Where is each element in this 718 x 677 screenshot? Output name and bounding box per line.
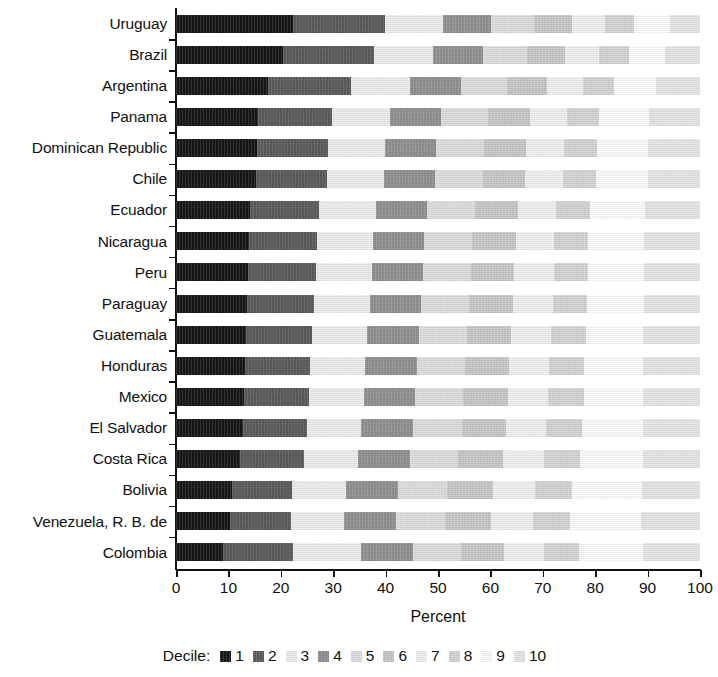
x-axis-tick [176, 570, 178, 577]
legend-item-decile-3[interactable]: 3 [286, 648, 310, 664]
bar-segment-decile-10 [645, 201, 700, 219]
y-axis-tick [169, 195, 176, 196]
bar-segment-decile-2 [243, 419, 307, 437]
bar-segment-decile-3 [351, 77, 410, 95]
bar-segment-decile-9 [629, 46, 666, 64]
x-axis-tick-label: 50 [429, 580, 446, 596]
bar-segment-decile-3 [328, 139, 385, 157]
bar-segment-decile-2 [283, 46, 374, 64]
legend-swatch-icon [416, 651, 427, 662]
x-axis-tick [333, 570, 335, 577]
plot-area: UruguayBrazilArgentinaPanamaDominican Re… [176, 8, 700, 568]
bar-segment-decile-5 [413, 419, 462, 437]
bar-segment-decile-1 [176, 388, 244, 406]
stacked-bar-chart: UruguayBrazilArgentinaPanamaDominican Re… [0, 0, 718, 677]
bar-segment-decile-5 [436, 139, 483, 157]
bar-segment-decile-8 [554, 263, 589, 281]
legend-label: 7 [431, 648, 440, 664]
bar-segment-decile-7 [503, 450, 544, 468]
y-axis-tick [169, 319, 176, 320]
y-axis-tick [169, 226, 176, 227]
bar-segment-decile-10 [641, 512, 700, 530]
x-axis-title: Percent [176, 608, 700, 626]
bar-segment-decile-3 [304, 450, 358, 468]
x-axis-tick [595, 570, 597, 577]
bar-segment-decile-2 [246, 326, 312, 344]
bar-segment-decile-8 [583, 77, 614, 95]
bar-segment-decile-8 [554, 232, 588, 250]
bar-segment-decile-6 [467, 326, 511, 344]
bar-segment-decile-7 [565, 46, 599, 64]
bar-segment-decile-4 [367, 326, 418, 344]
bar-segment-decile-4 [361, 419, 412, 437]
category-label: Uruguay [109, 16, 167, 32]
category-label: Chile [132, 171, 167, 187]
bar-segment-decile-6 [483, 170, 525, 188]
bar-row: Peru [176, 257, 700, 288]
x-axis-tick-label: 60 [482, 580, 499, 596]
stacked-bar [176, 419, 700, 437]
bar-row: Chile [176, 164, 700, 195]
bar-segment-decile-6 [465, 357, 510, 375]
bar-segment-decile-1 [176, 481, 232, 499]
bar-segment-decile-5 [419, 326, 467, 344]
bar-segment-decile-9 [582, 419, 643, 437]
bar-segment-decile-1 [176, 543, 223, 561]
stacked-bar [176, 512, 700, 530]
y-axis-tick [169, 475, 176, 476]
legend-item-decile-1[interactable]: 1 [220, 648, 244, 664]
bar-segment-decile-8 [567, 108, 599, 126]
bar-segment-decile-8 [544, 543, 580, 561]
bar-segment-decile-4 [390, 108, 441, 126]
bar-segment-decile-10 [665, 46, 700, 64]
legend-label: 9 [496, 648, 505, 664]
bar-segment-decile-4 [361, 543, 413, 561]
bar-segment-decile-3 [332, 108, 390, 126]
bar-segment-decile-6 [472, 232, 515, 250]
bar-row: Nicaragua [176, 226, 700, 257]
legend-item-decile-7[interactable]: 7 [416, 648, 440, 664]
bar-segment-decile-6 [471, 263, 514, 281]
legend-item-decile-9[interactable]: 9 [481, 648, 505, 664]
bar-segment-decile-1 [176, 15, 293, 33]
bar-segment-decile-7 [506, 419, 546, 437]
legend-item-decile-10[interactable]: 10 [514, 648, 546, 664]
legend-label: 4 [333, 648, 342, 664]
bar-segment-decile-9 [588, 263, 644, 281]
y-axis-tick [169, 39, 176, 40]
stacked-bar [176, 139, 700, 157]
legend-label: 1 [235, 648, 244, 664]
bar-segment-decile-3 [293, 543, 361, 561]
bar-segment-decile-7 [525, 170, 563, 188]
x-axis-tick [228, 570, 230, 577]
bar-segment-decile-5 [410, 450, 459, 468]
bar-segment-decile-4 [410, 77, 461, 95]
bar-segment-decile-3 [307, 419, 361, 437]
bar-segment-decile-2 [245, 357, 311, 375]
legend-item-decile-5[interactable]: 5 [351, 648, 375, 664]
bar-segment-decile-9 [590, 201, 644, 219]
bar-segment-decile-9 [599, 108, 649, 126]
legend-label: 6 [398, 648, 407, 664]
bar-segment-decile-8 [564, 139, 597, 157]
bar-segment-decile-6 [507, 77, 547, 95]
bar-segment-decile-5 [424, 232, 472, 250]
legend-item-decile-4[interactable]: 4 [318, 648, 342, 664]
bar-segment-decile-3 [316, 263, 372, 281]
bar-segment-decile-2 [230, 512, 290, 530]
bar-segment-decile-4 [433, 46, 483, 64]
bar-segment-decile-7 [518, 201, 557, 219]
bar-segment-decile-6 [461, 543, 504, 561]
bar-segment-decile-3 [374, 46, 433, 64]
bar-segment-decile-5 [461, 77, 507, 95]
legend-item-decile-6[interactable]: 6 [383, 648, 407, 664]
legend-item-decile-2[interactable]: 2 [253, 648, 277, 664]
y-axis-tick [169, 444, 176, 445]
bar-segment-decile-2 [240, 450, 303, 468]
category-label: Brazil [129, 47, 167, 63]
bar-segment-decile-8 [605, 15, 634, 33]
y-axis-tick [169, 257, 176, 258]
bar-segment-decile-9 [634, 15, 670, 33]
bar-segment-decile-9 [584, 357, 643, 375]
legend-item-decile-8[interactable]: 8 [449, 648, 473, 664]
